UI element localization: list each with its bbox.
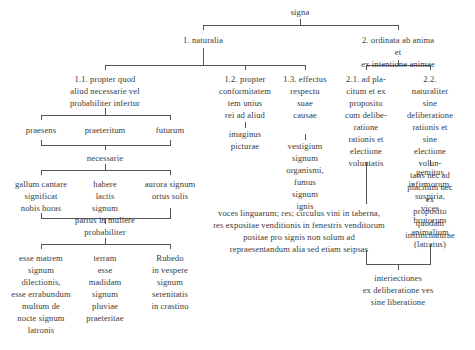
node-2-1: 2.1. ad pla- citum et ex proposito cum d…: [345, 73, 387, 169]
node-futurum: futurum: [156, 124, 184, 136]
node-signa: signa: [291, 6, 310, 18]
node-necessarie-example-1: gallum cantare significat nobis horas: [15, 178, 67, 214]
node-1-2-example: imaginus picturae: [229, 128, 261, 152]
node-probabiliter-example-2: terram esse madidam signum pluviae praet…: [86, 252, 123, 324]
node-probabiliter-example-3: Rubedo in vespere signum serenitatis in …: [151, 252, 188, 312]
signa-tree-diagram: signa 1. naturalia 2. ordinata ab anima …: [0, 0, 475, 350]
node-1-3-example: vestigium signum organismi, fumus signum…: [286, 140, 323, 212]
node-naturalia: 1. naturalia: [183, 34, 223, 46]
node-1-3: 1.3. effectus respectu suae causae: [283, 73, 326, 121]
node-1-1: 1.1. propter quod aliud necessarie vel p…: [70, 73, 140, 109]
node-interiectiones: interiectiones ex deliberatione ves sine…: [363, 272, 434, 308]
node-praesens: praesens: [26, 124, 56, 136]
node-probabiliter-example-1: esse matrem signum dilectionis, esse err…: [11, 252, 71, 336]
node-2-2-example: gemitus infirmorum, suspiria, vices brut…: [408, 166, 453, 250]
node-probabiliter: probabiliter: [84, 226, 125, 238]
node-necessarie: necessarie: [87, 152, 123, 164]
node-necessarie-example-2: habere lactis signum partus in muliere: [75, 178, 135, 226]
node-2-1-example: voces linguarum; res; circulus vini in t…: [213, 207, 385, 255]
node-praeteritum: praeteritum: [85, 124, 126, 136]
node-necessarie-example-3: aurora signum ortus solis: [145, 178, 196, 202]
node-ordinata: 2. ordinata ab anima et ex intentione an…: [360, 34, 437, 70]
node-1-2: 1.2. propter conformitatem tem unius rei…: [219, 73, 271, 121]
